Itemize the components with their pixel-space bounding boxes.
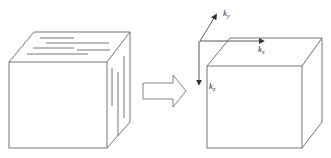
axes — [199, 15, 263, 84]
ky-label: ky — [223, 8, 230, 19]
kx-label: kx — [258, 44, 265, 55]
kz-label: kz — [209, 81, 216, 92]
left-cube — [9, 32, 130, 148]
diagram-canvas: ky kx kz — [0, 0, 331, 158]
ky-axis — [200, 15, 216, 41]
transform-arrow — [143, 75, 186, 107]
